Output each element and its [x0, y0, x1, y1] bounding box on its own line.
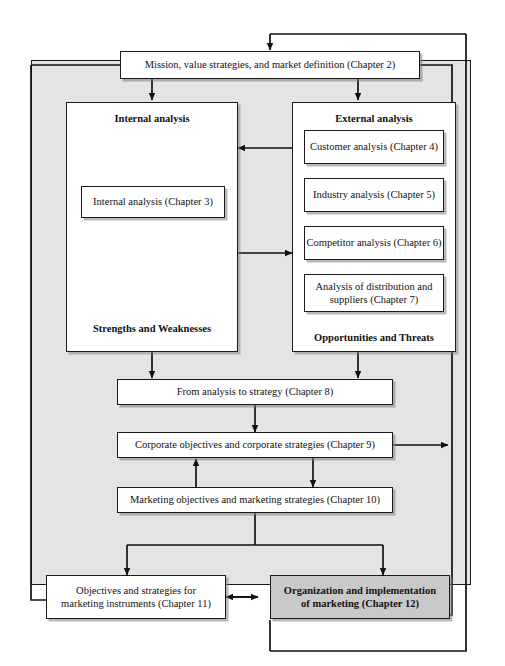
node-competitor-analysis[interactable]: Competitor analysis (Chapter 6): [304, 226, 444, 260]
panel-internal-title: Internal analysis: [67, 113, 237, 124]
node-from-analysis-to-strategy[interactable]: From analysis to strategy (Chapter 8): [117, 379, 393, 405]
node-industry-analysis[interactable]: Industry analysis (Chapter 5): [304, 178, 444, 212]
node-corporate-objectives[interactable]: Corporate objectives and corporate strat…: [117, 432, 393, 458]
node-organization-implementation[interactable]: Organization and implementation of marke…: [270, 575, 450, 619]
node-internal-analysis-label: Internal analysis (Chapter 3): [93, 195, 213, 208]
diagram-canvas: Mission, value strategies, and market de…: [0, 0, 505, 666]
node-marketing-objectives-label: Marketing objectives and marketing strat…: [130, 493, 380, 506]
node-organization-implementation-label: Organization and implementation of marke…: [279, 584, 441, 610]
node-marketing-instruments-label: Objectives and strategies for marketing …: [55, 584, 217, 610]
node-internal-analysis[interactable]: Internal analysis (Chapter 3): [81, 186, 225, 218]
node-marketing-instruments[interactable]: Objectives and strategies for marketing …: [46, 575, 226, 619]
panel-external-footer: Opportunities and Threats: [293, 332, 455, 343]
node-mission[interactable]: Mission, value strategies, and market de…: [120, 51, 420, 79]
node-marketing-objectives[interactable]: Marketing objectives and marketing strat…: [117, 487, 393, 513]
node-industry-analysis-label: Industry analysis (Chapter 5): [313, 188, 435, 201]
node-corporate-objectives-label: Corporate objectives and corporate strat…: [135, 438, 375, 451]
panel-internal-analysis: Internal analysis Strengths and Weakness…: [66, 102, 238, 352]
node-distribution-analysis[interactable]: Analysis of distribution and suppliers (…: [304, 274, 444, 312]
node-from-analysis-label: From analysis to strategy (Chapter 8): [177, 385, 334, 398]
node-competitor-analysis-label: Competitor analysis (Chapter 6): [306, 236, 441, 249]
node-customer-analysis[interactable]: Customer analysis (Chapter 4): [304, 130, 444, 164]
panel-external-title: External analysis: [293, 113, 455, 124]
node-mission-label: Mission, value strategies, and market de…: [145, 58, 395, 71]
node-customer-analysis-label: Customer analysis (Chapter 4): [310, 140, 438, 153]
left-rail-down: [31, 65, 46, 600]
node-distribution-analysis-label: Analysis of distribution and suppliers (…: [311, 280, 437, 306]
panel-internal-footer: Strengths and Weaknesses: [67, 323, 237, 334]
